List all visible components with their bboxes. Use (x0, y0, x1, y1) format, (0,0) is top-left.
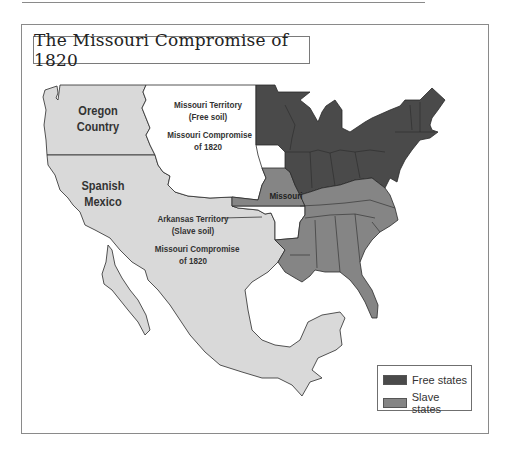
label-arkansas-territory: Arkansas Territory (Slave soil) Missouri… (155, 213, 232, 267)
label-oregon-country: Oregon Country (64, 103, 132, 136)
label-missouri-state: Missouri (269, 190, 303, 202)
label-missouri-territory: Missouri Territory (Free soil) Missouri … (167, 99, 249, 153)
label-spanish-mexico: Spanish Mexico (65, 178, 142, 211)
slave-states-swatch (383, 398, 407, 408)
map-title: The Missouri Compromise of 1820 (34, 30, 309, 70)
legend-item-slave-states: Slave states (383, 391, 471, 415)
free-states-swatch (383, 375, 407, 385)
map-title-box: The Missouri Compromise of 1820 (33, 36, 310, 64)
legend-item-free-states: Free states (383, 374, 467, 386)
map-legend: Free states Slave states (377, 365, 472, 411)
